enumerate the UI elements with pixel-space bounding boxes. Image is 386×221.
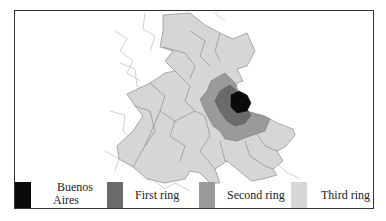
legend-label-line2: Aires (53, 194, 93, 207)
legend-swatch-first-ring (107, 182, 123, 208)
map-canvas (15, 11, 373, 208)
map-legend: Buenos Aires First ring Second ring Thir… (15, 181, 373, 208)
legend-swatch-second-ring (199, 182, 215, 208)
legend-label-buenos-aires: Buenos Aires (57, 181, 93, 207)
legend-label-second-ring: Second ring (227, 189, 285, 202)
legend-label-first-ring: First ring (135, 189, 179, 202)
legend-swatch-third-ring (291, 182, 307, 208)
buenos-aires-region (231, 91, 251, 113)
legend-label-third-ring: Third ring (321, 189, 370, 202)
legend-swatch-buenos-aires (15, 182, 31, 208)
map-frame: Buenos Aires First ring Second ring Thir… (14, 10, 374, 209)
